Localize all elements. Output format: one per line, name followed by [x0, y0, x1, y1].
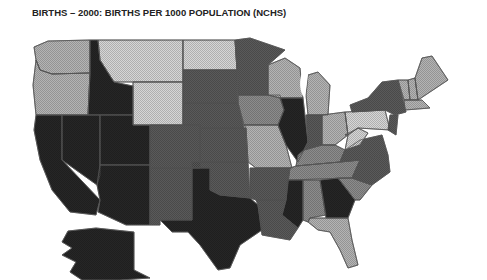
us-choropleth-map — [0, 0, 487, 280]
